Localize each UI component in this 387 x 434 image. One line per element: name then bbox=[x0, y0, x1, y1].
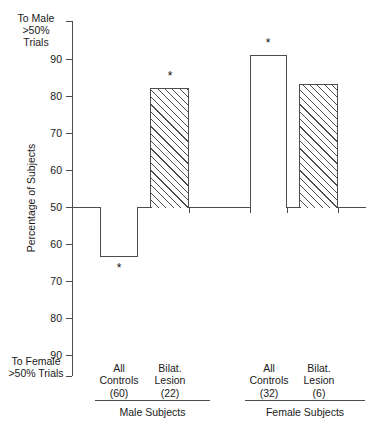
y-tick-label-50: 50 bbox=[22, 202, 62, 212]
y-tick-label-lower-90: 90 bbox=[22, 350, 62, 360]
y-tick-mark-upper-90 bbox=[66, 59, 72, 60]
axis-caption-to-male-line3: Trials bbox=[8, 36, 64, 48]
category-line-2: Lesion bbox=[288, 374, 350, 386]
y-tick-label-upper-60: 60 bbox=[22, 165, 62, 175]
group-label-female: Female Subjects bbox=[245, 406, 365, 418]
y-axis-top-cap-tick bbox=[66, 21, 72, 22]
y-tick-label-upper-70: 70 bbox=[22, 128, 62, 138]
bar-female-all-controls bbox=[250, 55, 287, 208]
significance-star-male-bilateral-lesion: * bbox=[160, 70, 180, 82]
chart-figure: Percentage of Subjects To Male >50% Tria… bbox=[0, 0, 387, 434]
category-label-female-bilateral-lesion: Bilat. Lesion (6) bbox=[288, 362, 350, 399]
y-tick-mark-50 bbox=[66, 207, 72, 208]
category-line-3: (6) bbox=[288, 387, 350, 399]
category-line-3: (22) bbox=[139, 387, 201, 399]
y-tick-label-lower-70: 70 bbox=[22, 276, 62, 286]
x-tick-mark-3 bbox=[189, 207, 190, 213]
y-tick-label-lower-80: 80 bbox=[22, 313, 62, 323]
y-axis-line bbox=[72, 21, 73, 376]
y-tick-mark-upper-70 bbox=[66, 133, 72, 134]
axis-caption-to-male-line1: To Male bbox=[8, 12, 64, 24]
y-tick-mark-upper-60 bbox=[66, 170, 72, 171]
bar-male-all-controls bbox=[100, 207, 138, 257]
x-tick-mark-5 bbox=[287, 207, 288, 213]
y-tick-label-lower-60: 60 bbox=[22, 239, 62, 249]
group-rule-male bbox=[95, 400, 210, 401]
category-line-1: Bilat. bbox=[139, 362, 201, 374]
x-tick-mark-6 bbox=[338, 207, 339, 213]
y-tick-mark-lower-60 bbox=[66, 244, 72, 245]
axis-caption-to-male: To Male >50% Trials bbox=[8, 12, 64, 49]
significance-star-female-all-controls: * bbox=[258, 37, 278, 49]
y-tick-mark-lower-90 bbox=[66, 355, 72, 356]
category-line-1: Bilat. bbox=[288, 362, 350, 374]
significance-star-male-all-controls: * bbox=[109, 262, 129, 274]
y-tick-mark-upper-80 bbox=[66, 96, 72, 97]
y-axis-bottom-cap-tick bbox=[66, 376, 72, 377]
category-label-male-bilateral-lesion: Bilat. Lesion (22) bbox=[139, 362, 201, 399]
group-rule-female bbox=[245, 400, 365, 401]
y-tick-mark-lower-70 bbox=[66, 281, 72, 282]
axis-caption-to-female-line2: >50% Trials bbox=[6, 367, 66, 379]
group-label-male: Male Subjects bbox=[95, 406, 210, 418]
axis-caption-to-male-line2: >50% bbox=[8, 24, 64, 36]
y-tick-label-upper-80: 80 bbox=[22, 91, 62, 101]
category-line-2: Lesion bbox=[139, 374, 201, 386]
y-tick-mark-lower-80 bbox=[66, 318, 72, 319]
y-axis-title: Percentage of Subjects bbox=[25, 118, 37, 278]
bar-male-bilateral-lesion bbox=[150, 88, 189, 208]
bar-female-bilateral-lesion bbox=[299, 84, 338, 208]
y-tick-label-upper-90: 90 bbox=[22, 54, 62, 64]
